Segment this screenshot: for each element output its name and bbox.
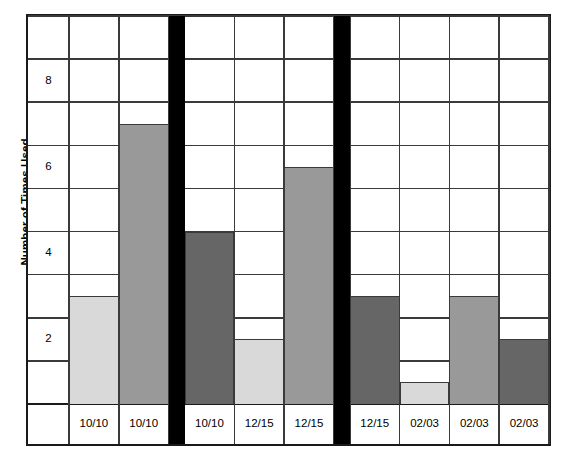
x-axis-label: 12/15 — [234, 418, 284, 430]
x-axis-label: 02/03 — [400, 418, 450, 430]
x-axis-labels: 10/1010/1010/1012/1512/1512/1502/0302/03… — [28, 16, 549, 444]
x-axis-label: 02/03 — [499, 418, 549, 430]
x-axis-label: 10/10 — [119, 418, 169, 430]
x-axis-label: 12/15 — [284, 418, 334, 430]
x-axis-label: 02/03 — [449, 418, 499, 430]
bar-chart: Number of Times Used 2468 10/1010/1010/1… — [0, 0, 566, 458]
x-axis-label: 12/15 — [350, 418, 400, 430]
x-axis-label: 10/10 — [69, 418, 119, 430]
plot-area: 2468 10/1010/1010/1012/1512/1512/1502/03… — [26, 14, 551, 446]
x-axis-label: 10/10 — [185, 418, 235, 430]
